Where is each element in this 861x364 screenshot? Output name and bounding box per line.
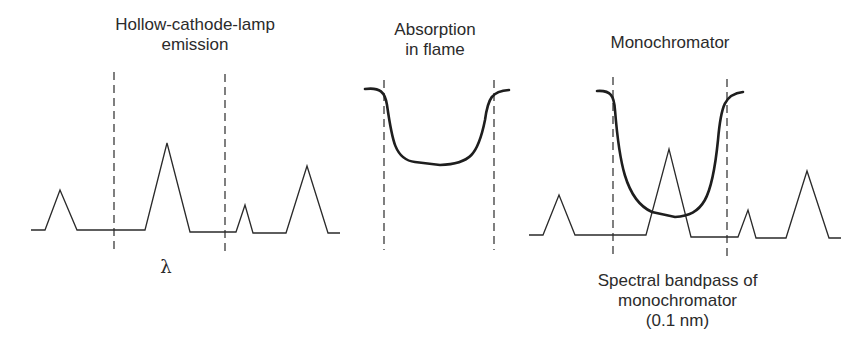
emission-spectrum-line bbox=[31, 143, 340, 233]
absorption-curve bbox=[365, 89, 509, 165]
panel1-bandpass-markers bbox=[114, 72, 225, 255]
diagram-canvas bbox=[0, 0, 861, 364]
panel3-bandpass-markers bbox=[613, 77, 727, 260]
monochromator-emission-line bbox=[529, 149, 841, 238]
panel1-emission-lines bbox=[31, 143, 340, 233]
